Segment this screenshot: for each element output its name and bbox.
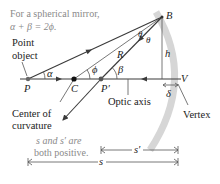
phi-arc	[87, 70, 90, 79]
point-B	[161, 16, 164, 19]
optic-axis-label: Optic axis	[108, 96, 151, 107]
label-V: V	[181, 73, 189, 84]
label-C: C	[71, 83, 79, 94]
alpha-arc	[44, 72, 46, 79]
center-label-1: Center of	[12, 108, 52, 119]
beta-arc	[112, 68, 117, 79]
label-B: B	[166, 10, 173, 21]
caption-line1: For a spherical mirror,	[10, 8, 100, 19]
point-object-label-2: object	[12, 50, 38, 61]
label-alpha: α	[47, 68, 53, 79]
label-h: h	[165, 48, 170, 59]
sign-note-line1: s and s′ are	[36, 135, 82, 146]
label-phi: ϕ	[92, 64, 98, 75]
point-P	[26, 77, 30, 81]
label-beta: β	[117, 64, 124, 75]
label-theta-2: θ	[146, 35, 151, 45]
spherical-mirror-diagram: For a spherical mirror, α + β = 2ϕ. Poin…	[0, 0, 220, 184]
vertex-leader	[178, 84, 188, 105]
incident-ray-arrow	[86, 47, 94, 54]
point-C	[71, 76, 76, 81]
label-P: P	[23, 83, 31, 94]
axis-arrow-left	[141, 77, 147, 82]
caption-line2: α + β = 2ϕ.	[10, 21, 56, 32]
point-object-label-1: Point	[12, 37, 34, 48]
axis-arrow-right	[56, 77, 62, 82]
label-s: s	[99, 156, 103, 167]
image-ray-extension	[63, 79, 101, 120]
label-P-prime: P′	[100, 83, 110, 94]
point-P-prime	[99, 77, 104, 82]
label-theta-1: θ	[138, 29, 143, 39]
point-object-leader	[22, 62, 27, 76]
label-R: R	[116, 49, 124, 60]
label-s-prime: s′	[134, 144, 141, 155]
sign-note-line2: both positive.	[34, 147, 88, 158]
vertex-label: Vertex	[183, 109, 211, 120]
center-label-2: curvature	[12, 120, 52, 131]
reflected-ray	[101, 17, 162, 79]
